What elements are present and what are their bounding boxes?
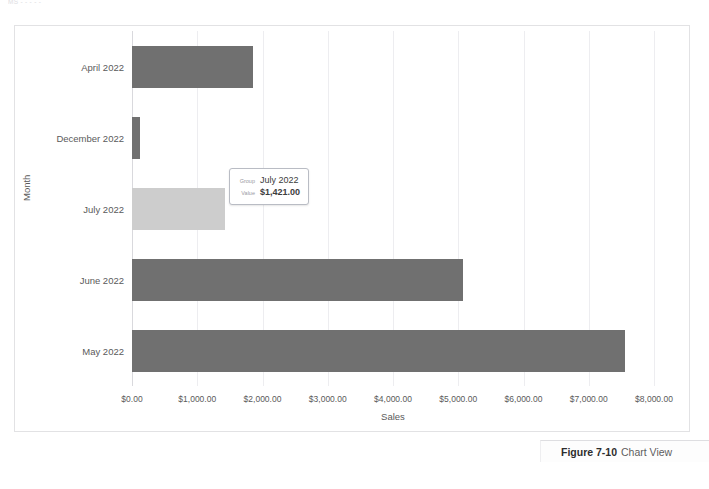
bar[interactable] [132,46,253,88]
bar[interactable] [132,188,225,230]
y-tick-label: April 2022 [81,61,124,72]
tooltip-group-label: Group [235,178,255,185]
chart-tooltip: Group July 2022 Value $1,421.00 [229,168,309,205]
x-tick-label: $4,000.00 [374,394,412,404]
gridline [654,31,655,386]
bar[interactable] [132,259,463,301]
y-tick-label: December 2022 [56,132,124,143]
x-tick-label: $1,000.00 [178,394,216,404]
x-tick-label: $3,000.00 [309,394,347,404]
figure-number: Figure 7-10 [561,446,617,458]
tooltip-group-row: Group July 2022 [235,174,302,186]
y-tick-label: May 2022 [82,345,124,356]
tooltip-value-label: Value [235,190,255,197]
bar[interactable] [132,117,140,159]
tooltip-value-value: $1,421.00 [260,186,300,198]
y-tick-label: June 2022 [80,274,124,285]
bar[interactable] [132,330,625,372]
figure-caption: Figure 7-10 Chart View [540,440,709,462]
plot-area: April 2022December 2022July 2022June 202… [132,31,654,386]
x-tick-label: $2,000.00 [244,394,282,404]
y-axis-title: Month [21,175,32,201]
y-tick-label: July 2022 [83,203,124,214]
x-tick-label: $8,000.00 [635,394,673,404]
x-tick-label: $6,000.00 [505,394,543,404]
figure-caption-text: Chart View [621,446,672,458]
scan-artifact-text: MS - - - - - [8,0,218,8]
x-tick-label: $5,000.00 [439,394,477,404]
chart-view: April 2022December 2022July 2022June 202… [14,25,690,432]
tooltip-value-row: Value $1,421.00 [235,186,302,198]
x-tick-label: $7,000.00 [570,394,608,404]
x-axis-title: Sales [132,411,654,422]
tooltip-group-value: July 2022 [260,174,299,186]
x-tick-label: $0.00 [121,394,142,404]
